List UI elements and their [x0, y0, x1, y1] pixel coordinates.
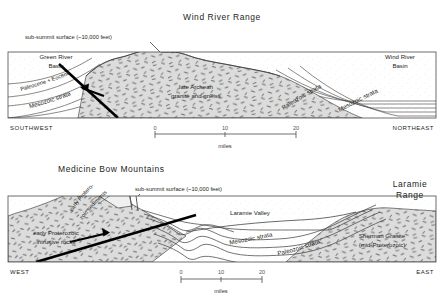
direction-northeast: NORTHEAST [393, 125, 434, 131]
panel-wind-river-range: Wind River Range sub-summit surface (~10… [8, 12, 436, 149]
sub-summit-annotation-bottom: sub-summit surface (~10,000 feet) [135, 186, 222, 192]
section-body-top [8, 50, 436, 118]
scale-tick-10-top: 10 [222, 125, 228, 131]
panel-title-wind-river: Wind River Range [183, 12, 261, 22]
scale-tick-0-top: 0 [153, 125, 156, 131]
sub-summit-annotation-top: sub-summit surface (~10,000 feet) [25, 34, 112, 40]
label-wind-river-basin-1: Wind River [385, 53, 415, 60]
label-wind-river-basin-2: Basin [392, 62, 407, 69]
scale-caption-top: miles [218, 143, 232, 149]
section-body-bottom [8, 175, 436, 264]
scale-tick-20-top: 20 [293, 125, 299, 131]
scale-caption-bottom: miles [214, 288, 228, 294]
label-intrusive-2: intrusive rocks [37, 238, 76, 245]
cross-section-svg: Wind River Range sub-summit surface (~10… [0, 0, 444, 308]
label-late-archean-1: late Archean [179, 83, 213, 90]
scale-tick-10-bottom: 10 [218, 269, 224, 275]
figure-root: Wind River Range sub-summit surface (~10… [0, 0, 444, 308]
scalebar-bottom: 0 10 20 miles [179, 269, 265, 294]
label-laramie-range-1: Laramie [393, 179, 428, 189]
label-green-river-basin-2: Basin [48, 62, 63, 69]
panel-medicine-bow: Medicine Bow Mountains sub-summit surfac… [8, 164, 436, 294]
scale-axis-top [155, 131, 296, 138]
label-laramie-range-2: Range [396, 190, 424, 200]
scale-axis-bottom [181, 276, 262, 283]
label-sherman-granite-1: Sherman Granite [359, 232, 406, 239]
label-intrusive-1: early Proterozoic [33, 229, 79, 236]
direction-southwest: SOUTHWEST [10, 125, 53, 131]
direction-east: EAST [416, 269, 434, 275]
label-late-archean-2: granite and gneiss [171, 92, 221, 99]
scale-tick-0-bottom: 0 [179, 269, 182, 275]
direction-west: WEST [10, 269, 29, 275]
panel-title-medicine-bow: Medicine Bow Mountains [58, 164, 165, 174]
label-green-river-basin-1: Green River [40, 53, 73, 60]
scalebar-top: 0 10 20 miles [153, 125, 299, 149]
label-sherman-granite-2: (mid-Proterozoic) [359, 241, 406, 248]
label-laramie-valley: Laramie Valley [230, 209, 271, 216]
scale-tick-20-bottom: 20 [259, 269, 265, 275]
